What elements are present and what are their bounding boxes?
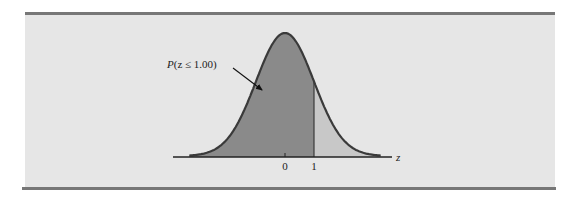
probability-annotation: P(z ≤ 1.00): [166, 58, 217, 71]
normal-distribution-figure: 0 1 z P(z ≤ 1.00): [0, 0, 577, 202]
annotation-text: (z ≤ 1.00): [174, 58, 217, 71]
curve-layer: [189, 33, 380, 157]
unshaded-area-right-of-z1: [314, 81, 381, 157]
tick-label-0: 0: [282, 160, 288, 172]
tick-label-1: 1: [311, 160, 317, 172]
chart-svg: 0 1 z P(z ≤ 1.00): [0, 0, 577, 202]
z-axis-label: z: [395, 151, 401, 163]
